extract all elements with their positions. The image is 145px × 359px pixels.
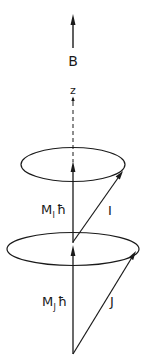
svg-text:M: M [42, 294, 53, 309]
angular-momentum-coupling-diagram: B z M I ħ I M J ħ J [0, 0, 145, 359]
b-field-label: B [68, 53, 78, 69]
i-vector-label: I [108, 203, 112, 218]
svg-text:J: J [53, 303, 56, 312]
z-axis-small-arrow [71, 97, 74, 107]
z-axis-label: z [70, 84, 76, 97]
b-arrowhead-icon [71, 14, 76, 25]
svg-text:I: I [53, 211, 55, 220]
j-vector-label: J [109, 294, 114, 309]
mj-hbar-label: M J ħ [42, 294, 67, 312]
mi-hbar-label: M I ħ [41, 202, 66, 220]
j-vector-arrow [73, 251, 136, 354]
svg-text:M: M [41, 202, 52, 217]
mj-projection-arrow [71, 245, 76, 354]
b-field-arrow [71, 14, 76, 48]
mi-projection-arrow [71, 161, 76, 243]
svg-text:ħ: ħ [57, 202, 66, 217]
svg-text:ħ: ħ [58, 294, 67, 309]
